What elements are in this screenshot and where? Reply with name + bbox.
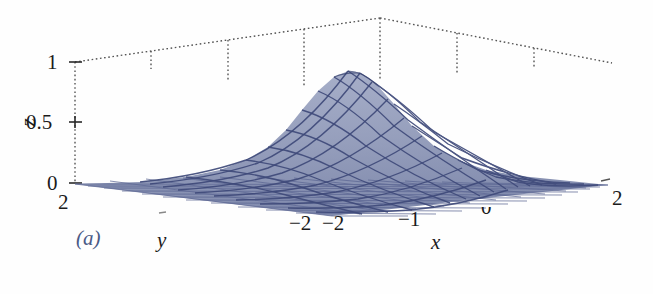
y-tick-2: 2 [58, 192, 69, 213]
x-axis-label: x [431, 232, 440, 253]
y-tick-minus2: −2 [289, 213, 311, 234]
z-tick-0point5: 0.5 [26, 112, 52, 133]
panel-label: (a) [76, 228, 101, 249]
x-tick-minus1: −1 [398, 209, 420, 230]
z-tick-0: 0 [47, 173, 58, 194]
gaussian-surface [75, 71, 608, 216]
y-axis-label: y [157, 230, 166, 251]
surface-plot-figure: z 1 0.5 0 2 −2 y −2 −1 0 2 x (a) [0, 0, 653, 294]
x-tick-0: 0 [481, 207, 495, 218]
x-tick-minus2: −2 [322, 213, 344, 234]
x-tick-2: 2 [612, 188, 623, 209]
z-tick-1: 1 [47, 52, 58, 73]
